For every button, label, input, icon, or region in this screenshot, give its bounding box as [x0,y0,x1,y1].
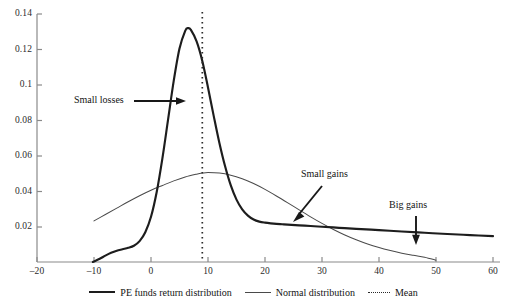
x-tick-label: –20 [17,266,57,276]
chart-figure: 0.14 0.12 0.1 0.08 0.06 0.04 0.02 –20 –1… [0,0,507,304]
x-tick-label: 40 [359,266,399,276]
y-tick-label: 0.1 [0,79,32,89]
legend-label: Mean [395,287,418,298]
x-tick-label: 0 [131,266,171,276]
annotation-small-gains: Small gains [301,168,348,179]
y-tick-label: 0.14 [0,8,32,18]
series-line-normal-distribution [94,173,436,261]
annotation-big-gains: Big gains [389,199,427,210]
y-tick-label: 0.06 [0,150,32,160]
y-axis-ticks [37,14,42,227]
legend-dotted-swatch-icon [368,292,390,293]
legend-item-mean: Mean [368,287,418,298]
x-tick-label: 20 [245,266,285,276]
legend-label: PE funds return distribution [120,287,231,298]
y-tick-label: 0.02 [0,221,32,231]
legend-line-swatch-icon [245,292,271,293]
x-tick-label: 50 [416,266,456,276]
legend-label: Normal distribution [276,287,355,298]
legend-item-pe-funds: PE funds return distribution [89,287,231,298]
small-gains-arrow [293,186,322,222]
legend-line-swatch-icon [89,291,115,293]
x-tick-label: 30 [302,266,342,276]
x-tick-label: 60 [473,266,507,276]
legend-item-normal: Normal distribution [245,287,355,298]
y-tick-label: 0.12 [0,44,32,54]
chart-legend: PE funds return distribution Normal dist… [0,282,507,302]
series-line-pe-funds-return-distribution [93,28,493,262]
chart-plot-area [0,0,507,304]
x-tick-label: –10 [74,266,114,276]
annotation-small-losses: Small losses [74,94,124,105]
y-tick-label: 0.04 [0,186,32,196]
big-gains-arrow [412,216,420,245]
x-tick-label: 10 [188,266,228,276]
small-losses-arrow [134,97,186,105]
y-tick-label: 0.08 [0,115,32,125]
